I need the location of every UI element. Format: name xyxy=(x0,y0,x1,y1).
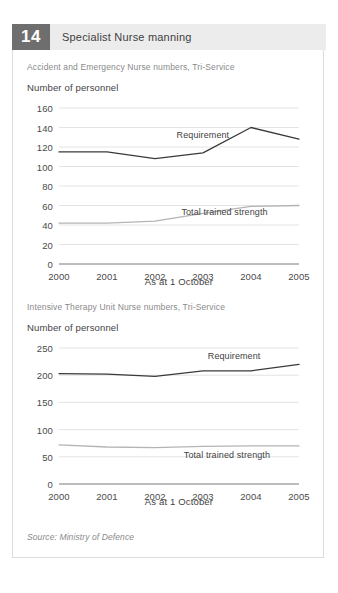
series-annotation: Total trained strength xyxy=(184,450,270,460)
y-axis-tick-label: 100 xyxy=(27,424,53,435)
y-axis-tick-label: 120 xyxy=(27,142,53,153)
figure-number-badge: 14 xyxy=(12,24,50,50)
y-axis-tick-label: 60 xyxy=(27,200,53,211)
chart1-x-axis-title: As at 1 October xyxy=(59,276,299,287)
y-axis-tick-label: 200 xyxy=(27,370,53,381)
series-annotation: Requirement xyxy=(177,130,230,140)
series-annotation: Total trained strength xyxy=(181,207,267,217)
y-axis-tick-label: 80 xyxy=(27,181,53,192)
y-axis-tick-label: 250 xyxy=(27,343,53,354)
y-axis-tick-label: 40 xyxy=(27,220,53,231)
series-line xyxy=(59,445,299,448)
chart-canvas xyxy=(13,290,325,520)
figure-title: Specialist Nurse manning xyxy=(62,31,192,43)
series-annotation: Requirement xyxy=(208,351,261,361)
figure-card: Accident and Emergency Nurse numbers, Tr… xyxy=(12,50,324,558)
y-axis-tick-label: 160 xyxy=(27,103,53,114)
y-axis-tick-label: 50 xyxy=(27,451,53,462)
y-axis-tick-label: 0 xyxy=(27,479,53,490)
y-axis-tick-label: 140 xyxy=(27,122,53,133)
y-axis-tick-label: 0 xyxy=(27,259,53,270)
y-axis-tick-label: 150 xyxy=(27,397,53,408)
source-note: Source: Ministry of Defence xyxy=(27,532,134,542)
series-line xyxy=(59,364,299,376)
figure-page: 14 Specialist Nurse manning Accident and… xyxy=(0,0,338,593)
y-axis-tick-label: 100 xyxy=(27,161,53,172)
y-axis-tick-label: 20 xyxy=(27,239,53,250)
chart2-plot-area: 250200150100500200020012002200320042005R… xyxy=(13,290,325,520)
chart1-plot-area: 1601401201008060402002000200120022003200… xyxy=(13,50,325,310)
chart2-x-axis-title: As at 1 October xyxy=(59,496,299,507)
figure-header: 14 Specialist Nurse manning xyxy=(12,24,326,50)
